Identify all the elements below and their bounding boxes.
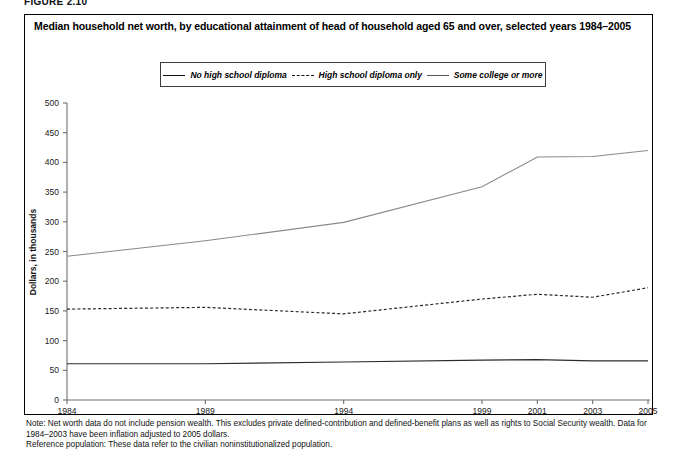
note-line-1: Note: Net worth data do not include pens…: [26, 419, 666, 430]
reference-population-note: Reference population: These data refer t…: [26, 440, 666, 451]
y-tick-label: 50: [50, 365, 60, 375]
x-tick-label: 1989: [196, 406, 215, 416]
note-line-2: 1984–2003 have been inflation adjusted t…: [26, 430, 666, 441]
y-tick-label: 300: [45, 217, 59, 227]
y-tick-label: 400: [45, 157, 59, 167]
y-tick-label: 150: [45, 306, 59, 316]
y-tick-label: 250: [45, 247, 59, 257]
y-tick-label: 100: [45, 336, 59, 346]
series-group: [67, 151, 648, 364]
x-tick-label: 2001: [528, 406, 547, 416]
footnotes: Note: Net worth data do not include pens…: [26, 419, 666, 451]
series-line-some-college-or-more: [67, 151, 648, 257]
y-tick-group: 050100150200250300350400450500: [45, 98, 67, 405]
y-tick-label: 350: [45, 187, 59, 197]
x-tick-label: 2003: [583, 406, 602, 416]
x-tick-group: 1984198919941999200120032005: [58, 400, 658, 416]
x-tick-label: 1999: [473, 406, 492, 416]
series-line-high-school-diploma-only: [67, 288, 648, 314]
y-tick-label: 500: [45, 98, 59, 108]
y-tick-label: 200: [45, 276, 59, 286]
y-tick-label: 0: [54, 395, 59, 405]
x-tick-label: 2005: [639, 406, 658, 416]
series-line-no-high-school-diploma: [67, 360, 648, 364]
x-tick-label: 1984: [58, 406, 77, 416]
x-tick-label: 1994: [334, 406, 353, 416]
line-chart: 050100150200250300350400450500 198419891…: [0, 0, 677, 459]
y-tick-label: 450: [45, 128, 59, 138]
y-axis-label: Dollars, in thousands: [28, 209, 38, 296]
